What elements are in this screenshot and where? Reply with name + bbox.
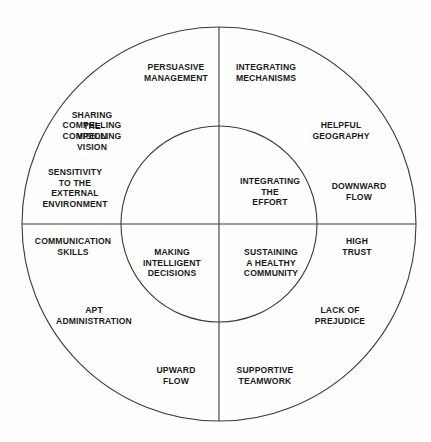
concentric-circle-diagram: SHARING THE COMPELLING VISION INTEGRATIN…: [0, 0, 431, 442]
diagram-canvas: [0, 0, 431, 442]
